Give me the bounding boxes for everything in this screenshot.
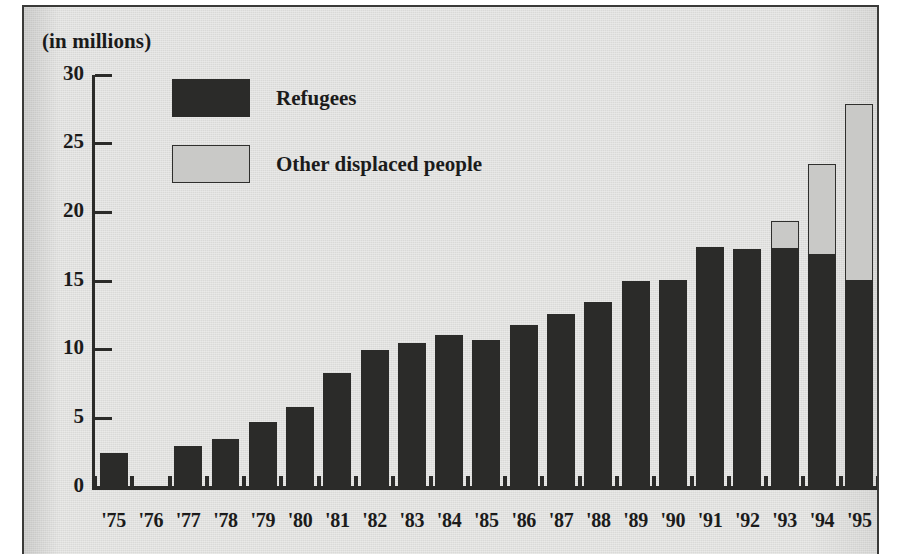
bar-segment-refugees	[361, 350, 389, 487]
x-tick-label-76: '76	[132, 509, 169, 532]
x-tick-label-81: '81	[319, 509, 356, 532]
bar-slot-83	[393, 75, 430, 487]
x-tick-label-91: '91	[692, 509, 729, 532]
bar-slot-77	[170, 75, 207, 487]
baseline-stub-tick	[578, 476, 582, 487]
baseline-stub-tick	[391, 476, 395, 487]
bar-slot-93	[766, 75, 803, 487]
bar-slot-88	[580, 75, 617, 487]
bar-85	[472, 340, 500, 487]
bar-segment-refugees	[808, 254, 836, 487]
baseline-stub-tick	[317, 476, 321, 487]
bar-slot-86	[505, 75, 542, 487]
baseline-stub-tick	[354, 476, 358, 487]
x-tick-label-78: '78	[207, 509, 244, 532]
baseline-stub-tick	[801, 476, 805, 487]
bar-86	[510, 325, 538, 487]
bar-segment-refugees	[547, 314, 575, 487]
x-tick-label-93: '93	[766, 509, 803, 532]
baseline-stub-tick	[764, 476, 768, 487]
baseline-stub-tick	[242, 476, 246, 487]
bar-segment-refugees	[174, 446, 202, 487]
baseline-stub-tick	[727, 476, 731, 487]
bar-segment-refugees	[398, 343, 426, 487]
x-tick-label-92: '92	[729, 509, 766, 532]
bar-segment-refugees	[845, 280, 873, 487]
bar-segment-refugees	[771, 248, 799, 487]
x-tick-label-82: '82	[356, 509, 393, 532]
bar-slot-78	[207, 75, 244, 487]
bar-segment-refugees	[622, 281, 650, 487]
bar-slot-80	[281, 75, 318, 487]
baseline-stub-tick	[503, 476, 507, 487]
baseline-stub-tick	[168, 476, 172, 487]
bar-77	[174, 446, 202, 487]
x-tick-label-79: '79	[244, 509, 281, 532]
x-tick-label-83: '83	[393, 509, 430, 532]
bar-segment-refugees	[733, 249, 761, 487]
bar-88	[584, 302, 612, 487]
bar-80	[286, 407, 314, 487]
bar-segment-other-displaced	[771, 221, 799, 248]
bar-segment-refugees	[212, 439, 240, 487]
baseline-stub-tick	[540, 476, 544, 487]
baseline-stub-tick	[690, 476, 694, 487]
baseline-stub-tick	[205, 476, 209, 487]
bar-81	[323, 373, 351, 487]
bar-segment-refugees	[286, 407, 314, 487]
plot-area: 051015202530	[92, 75, 878, 487]
bar-78	[212, 439, 240, 487]
bar-segment-refugees	[659, 280, 687, 487]
bar-segment-refugees	[510, 325, 538, 487]
x-tick-label-75: '75	[95, 509, 132, 532]
x-tick-label-84: '84	[431, 509, 468, 532]
baseline-stub-tick	[130, 476, 134, 487]
bar-94	[808, 164, 836, 487]
bar-93	[771, 221, 799, 487]
x-tick-label-77: '77	[170, 509, 207, 532]
y-axis-unit-note: (in millions)	[42, 29, 151, 54]
bar-87	[547, 314, 575, 487]
bar-slot-75	[95, 75, 132, 487]
y-tick-label-30: 30	[63, 61, 84, 86]
bar-slot-85	[468, 75, 505, 487]
baseline-stub-tick	[279, 476, 283, 487]
bar-slot-82	[356, 75, 393, 487]
x-tick-label-90: '90	[654, 509, 691, 532]
bar-segment-other-displaced	[808, 164, 836, 253]
y-tick-label-10: 10	[63, 335, 84, 360]
bar-83	[398, 343, 426, 487]
x-tick-label-95: '95	[841, 509, 878, 532]
y-tick-label-25: 25	[63, 129, 84, 154]
bar-89	[622, 281, 650, 487]
x-tick-label-80: '80	[281, 509, 318, 532]
baseline-stub-tick	[93, 476, 97, 487]
bar-slot-89	[617, 75, 654, 487]
bar-slot-76	[132, 75, 169, 487]
bar-slot-95	[841, 75, 878, 487]
bar-84	[435, 335, 463, 487]
x-tick-label-94: '94	[803, 509, 840, 532]
bar-75	[100, 453, 128, 487]
bar-slot-90	[654, 75, 691, 487]
baseline-stub-tick	[839, 476, 843, 487]
x-tick-label-87: '87	[542, 509, 579, 532]
chart-figure: (in millions) Refugees Other displaced p…	[0, 0, 909, 554]
bar-slot-92	[729, 75, 766, 487]
y-tick-label-15: 15	[63, 267, 84, 292]
y-tick-label-0: 0	[74, 473, 85, 498]
x-tick-label-86: '86	[505, 509, 542, 532]
bar-segment-refugees	[435, 335, 463, 487]
bar-segment-refugees	[249, 422, 277, 487]
bar-segment-refugees	[696, 247, 724, 487]
baseline-stub-tick	[466, 476, 470, 487]
x-tick-label-88: '88	[580, 509, 617, 532]
bar-91	[696, 247, 724, 487]
bar-slot-79	[244, 75, 281, 487]
baseline-stub-tick	[652, 476, 656, 487]
bar-90	[659, 280, 687, 487]
bar-series-group	[95, 75, 878, 487]
bar-segment-refugees	[472, 340, 500, 487]
bar-slot-94	[803, 75, 840, 487]
bar-slot-84	[431, 75, 468, 487]
